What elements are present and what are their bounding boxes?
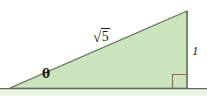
hypotenuse-length-label: √5 [93, 27, 110, 44]
triangle-diagram-svg [0, 0, 207, 96]
ground-band [0, 89, 207, 96]
angle-theta-label: θ [42, 68, 50, 80]
radical-sign-icon: √ [93, 29, 101, 45]
radicand-value: 5 [101, 28, 110, 44]
triangle-figure: √5 1 θ [0, 0, 207, 96]
opposite-side-length-label: 1 [192, 44, 199, 57]
radical-group: √5 [93, 27, 110, 44]
